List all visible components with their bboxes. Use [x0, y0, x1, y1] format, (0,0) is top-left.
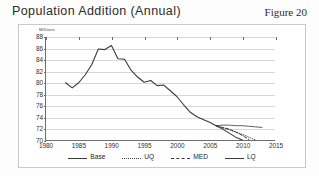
legend-item-lq[interactable]: LQ	[225, 154, 256, 161]
figure-root: Population Addition (Annual) Figure 20 M…	[0, 0, 319, 176]
chart-legend: BaseUQMEDLQ	[19, 154, 305, 161]
legend-item-uq[interactable]: UQ	[122, 154, 154, 161]
x-axis-tick-label: 1985	[72, 143, 86, 149]
x-axis-tick-label: 2000	[170, 143, 184, 149]
legend-item-med[interactable]: MED	[171, 154, 208, 161]
x-axis-tick-label: 2005	[203, 143, 217, 149]
chart-plot-area: 70727476788082848688 1980198519901995200…	[45, 37, 275, 141]
x-axis-tick-label: 2015	[269, 143, 283, 149]
legend-swatch-icon	[171, 155, 190, 161]
y-axis-tick-label: 74	[36, 115, 43, 121]
y-axis-tick-label: 82	[36, 68, 43, 74]
legend-label: MED	[193, 154, 208, 161]
y-axis-tick-label: 86	[36, 45, 43, 51]
y-axis-tick-label: 76	[36, 103, 43, 109]
figure-header: Population Addition (Annual) Figure 20	[0, 0, 319, 26]
y-axis-tick-label: 80	[36, 80, 43, 86]
page-title: Population Addition (Annual)	[12, 4, 181, 18]
x-axis-tick-label: 2010	[236, 143, 250, 149]
legend-label: Base	[90, 154, 105, 161]
y-axis-tick-label: 84	[36, 57, 43, 63]
legend-label: UQ	[144, 154, 154, 161]
legend-swatch-icon	[225, 155, 244, 161]
x-axis-tick-mark	[276, 37, 277, 40]
legend-item-base[interactable]: Base	[68, 154, 105, 161]
chart-container: Millions 70727476788082848688 1980198519…	[18, 24, 306, 168]
legend-swatch-icon	[68, 155, 87, 161]
y-axis-tick-label: 72	[36, 126, 43, 132]
legend-label: LQ	[247, 154, 256, 161]
chart-series-layer	[46, 37, 275, 140]
y-axis-tick-label: 78	[36, 92, 43, 98]
figure-number-label: Figure 20	[265, 6, 307, 18]
legend-swatch-icon	[122, 155, 141, 161]
y-axis-unit-label: Millions	[39, 27, 55, 32]
series-line-uq	[216, 126, 255, 140]
x-axis-tick-label: 1995	[137, 143, 151, 149]
x-axis-tick-label: 1980	[39, 143, 53, 149]
x-axis-tick-label: 1990	[105, 143, 119, 149]
y-axis-tick-label: 88	[36, 34, 43, 40]
